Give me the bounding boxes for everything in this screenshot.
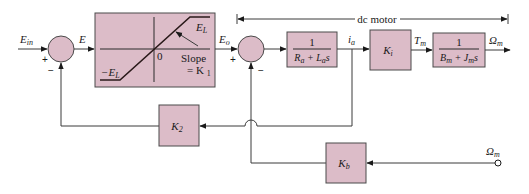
limited-label: Eo [218, 33, 230, 47]
svg-text:Ein: Ein [19, 33, 33, 47]
svg-text:Slope: Slope [181, 52, 206, 64]
error-label: E [78, 33, 86, 45]
block-diagram: dc motor Ein + − E 0 EL −EL Slope = K 1 … [0, 0, 529, 194]
svg-text:+: + [42, 54, 48, 65]
mechanical-block: 1 Bm + Jms [433, 33, 485, 67]
svg-text:1: 1 [309, 36, 315, 48]
armature-block: 1 Ra + Las [287, 32, 337, 67]
svg-text:−: − [48, 65, 54, 76]
ki-block: Ki [370, 30, 411, 70]
summing-junction-2: + − [230, 36, 264, 76]
kb-block: Kb [326, 143, 366, 183]
current-label: ia [348, 33, 355, 47]
svg-text:Ωm: Ωm [486, 145, 500, 159]
summing-junction-1: + − [42, 36, 74, 76]
limiter-block: 0 EL −EL Slope = K 1 [95, 13, 215, 87]
k2-block: K2 [159, 105, 199, 146]
svg-text:1: 1 [456, 36, 462, 48]
output-label: Ωm [489, 34, 503, 48]
kb-feedback-path [251, 63, 495, 163]
svg-text:+: + [230, 54, 236, 65]
input-signal: Ein [18, 33, 47, 49]
dc-motor-label: dc motor [357, 13, 397, 25]
dc-motor-bracket: dc motor [237, 13, 508, 25]
svg-text:−: − [258, 65, 264, 76]
torque-label: Tm [414, 34, 426, 48]
svg-text:0: 0 [157, 50, 163, 62]
